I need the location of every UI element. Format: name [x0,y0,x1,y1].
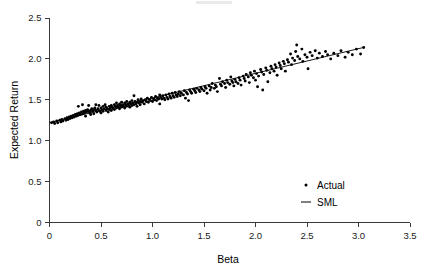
data-point [298,57,301,60]
x-tick-label-5: 2.5 [300,230,313,241]
data-point [279,64,282,67]
data-point [244,80,247,83]
x-tick-label-6: 3.0 [352,230,365,241]
legend-label-sml: SML [317,197,338,208]
y-tick-label-4: 2.0 [28,53,41,64]
data-point [261,89,264,92]
x-axis-title: Beta [217,253,239,265]
data-point [136,105,139,108]
data-point [256,85,259,88]
data-point [289,53,292,56]
x-tick-label-1: 0.5 [94,230,107,241]
chart-figure: 00.51.01.52.02.5 00.51.01.52.02.53.03.5 … [0,0,426,271]
y-tick-label-2: 1.0 [28,135,41,146]
data-point [237,82,240,85]
data-point [351,53,354,56]
data-point [186,93,189,96]
data-point [143,102,146,105]
x-tick-label-0: 0 [47,230,52,241]
data-point [184,97,187,100]
data-point [182,93,185,96]
scatter-plot-canvas: 00.51.01.52.02.5 00.51.01.52.02.53.03.5 … [0,0,426,271]
data-point [133,94,136,97]
data-point [300,48,303,51]
data-point [276,74,279,77]
y-tick-label-1: 0.5 [28,176,41,187]
data-point [266,80,269,83]
data-point [94,103,97,106]
legend-marker-actual [305,184,308,187]
data-point [253,70,256,73]
data-point [203,89,206,92]
data-point [53,122,56,125]
data-point [294,50,297,53]
data-point [239,79,242,82]
data-point [311,54,314,57]
legend-label-actual: Actual [317,180,345,191]
y-tick-label-0: 0 [36,217,41,228]
data-point [167,98,170,101]
data-point [84,115,87,118]
data-point [306,56,309,59]
data-point [205,87,208,90]
data-point [252,76,255,79]
data-point [228,83,231,86]
data-point [190,92,193,95]
data-point [56,121,59,124]
data-point [295,44,298,47]
data-point [216,90,219,93]
data-point [198,90,201,93]
data-point [268,71,271,74]
data-point [344,56,347,59]
data-point [163,98,166,101]
data-point [273,70,276,73]
data-point [287,61,290,64]
data-point [210,86,213,89]
top-artifact [196,1,232,4]
data-point [248,81,251,84]
data-point [262,73,265,76]
data-point [215,85,218,88]
data-point [340,49,343,52]
data-point [314,49,317,52]
data-point [283,62,286,65]
data-point [336,54,339,57]
x-tick-label-3: 1.5 [197,230,210,241]
data-point [224,86,227,89]
data-point [170,97,173,100]
data-point [257,75,260,78]
data-point [247,75,250,78]
data-point [293,59,296,62]
data-point [81,103,84,106]
y-tick-label-5: 2.5 [28,12,41,23]
data-point [296,55,299,58]
data-point [97,104,100,107]
data-point [307,67,310,70]
y-axis-title: Expected Return [8,81,20,159]
y-tick-label-3: 1.5 [28,94,41,105]
data-point [87,104,90,107]
data-point [291,57,294,60]
data-point [77,105,80,108]
data-point [194,91,197,94]
data-point [232,84,235,87]
data-point [139,103,142,106]
data-point [187,99,190,102]
data-point [223,82,226,85]
x-tick-label-7: 3.5 [403,230,416,241]
data-point [220,84,223,87]
data-point [206,92,209,95]
data-point [309,51,312,54]
data-point [254,79,257,82]
data-point [284,70,287,73]
data-point [218,77,221,80]
x-tick-label-2: 1.0 [146,230,159,241]
data-point [303,53,306,56]
data-point [173,96,176,99]
data-point [240,84,243,87]
data-point [229,75,232,78]
data-point [318,52,321,55]
x-tick-label-4: 2.0 [249,230,262,241]
data-point [231,81,234,84]
data-point [158,102,161,105]
